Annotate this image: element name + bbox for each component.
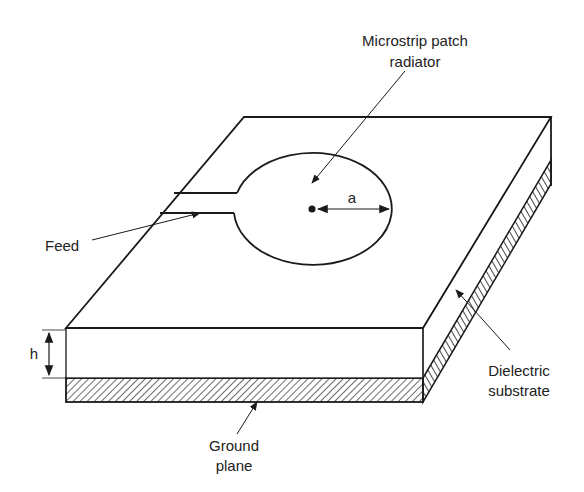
height-label: h	[30, 345, 38, 362]
feed-leader-arrow	[92, 213, 200, 240]
ground-plane	[66, 378, 423, 402]
dielectric-label-line2: substrate	[488, 382, 550, 399]
patch-center-dot	[309, 206, 316, 213]
ground-label-line2: plane	[216, 457, 253, 474]
height-dimension	[42, 330, 66, 378]
microstrip-antenna-diagram: Microstrip patch radiator a Feed h Diele…	[0, 0, 584, 492]
radius-label: a	[348, 189, 357, 206]
patch-label-line1: Microstrip patch	[362, 32, 468, 49]
ground-label-line1: Ground	[209, 437, 259, 454]
dielectric-label-line1: Dielectric	[488, 362, 550, 379]
patch-radiator	[160, 153, 392, 265]
ground-leader-arrow	[237, 402, 257, 434]
feed-label: Feed	[45, 237, 79, 254]
patch-label-line2: radiator	[390, 53, 441, 70]
